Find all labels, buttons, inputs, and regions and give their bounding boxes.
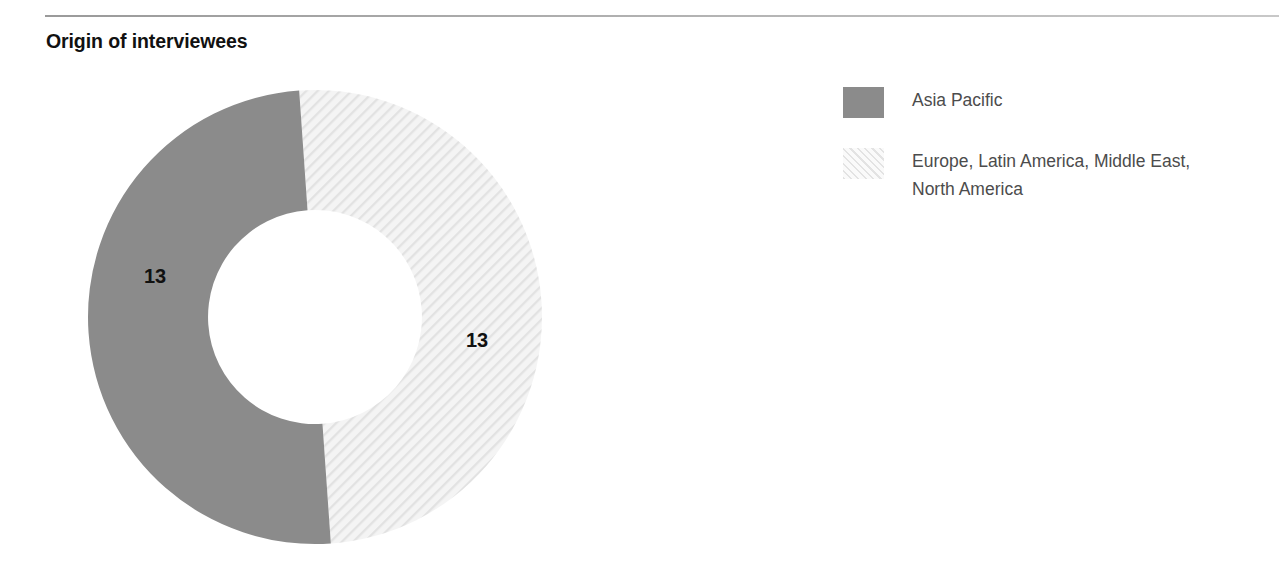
legend-label-line-1: Asia Pacific: [912, 86, 1002, 114]
legend-swatch-solid-gray-icon: [843, 87, 884, 118]
donut-chart-svg: 13 13: [78, 80, 558, 560]
header-divider-rule: [45, 15, 1279, 17]
legend-swatch-hatched-light-icon: [843, 148, 884, 179]
legend-label-europe-latin-america-middle-east-north-america: Europe, Latin America, Middle East, Nort…: [912, 147, 1190, 203]
legend-label-line-2: North America: [912, 175, 1190, 203]
donut-slice-label-europe-latin-america-middle-east-north-america: 13: [466, 329, 488, 351]
legend-label-asia-pacific: Asia Pacific: [912, 86, 1002, 114]
legend-label-line-1: Europe, Latin America, Middle East,: [912, 147, 1190, 175]
donut-slice-asia-pacific[interactable]: [88, 91, 331, 544]
donut-chart: 13 13: [78, 80, 558, 560]
legend-item-asia-pacific[interactable]: Asia Pacific: [843, 86, 1263, 118]
donut-slice-europe-latin-america-middle-east-north-america[interactable]: [299, 90, 542, 543]
legend-item-europe-latin-america-middle-east-north-america[interactable]: Europe, Latin America, Middle East, Nort…: [843, 147, 1263, 203]
donut-slice-label-asia-pacific: 13: [144, 265, 166, 287]
page-title: Origin of interviewees: [46, 30, 248, 53]
chart-legend: Asia Pacific Europe, Latin America, Midd…: [843, 86, 1263, 232]
